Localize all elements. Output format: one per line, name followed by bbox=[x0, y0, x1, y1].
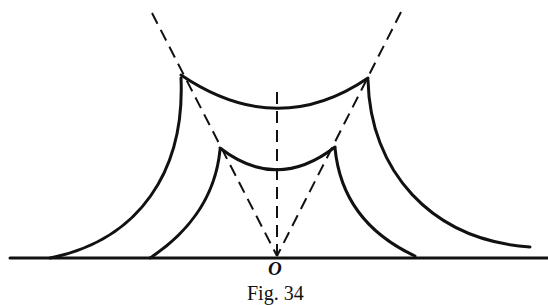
inner-left-curve bbox=[150, 150, 220, 258]
outer-right-curve bbox=[368, 80, 530, 247]
upper-arc bbox=[181, 75, 368, 108]
right-dashed-line bbox=[277, 12, 401, 256]
inner-right-curve bbox=[335, 148, 415, 256]
origin-label: O bbox=[268, 258, 282, 280]
figure-caption: Fig. 34 bbox=[247, 282, 304, 305]
outer-left-curve bbox=[50, 78, 181, 258]
left-dashed-line bbox=[152, 13, 277, 256]
